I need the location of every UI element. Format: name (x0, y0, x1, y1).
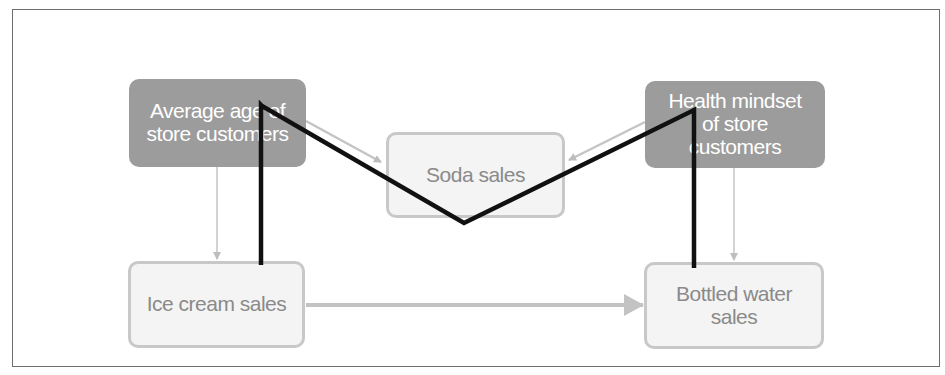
node-ice-cream-sales[interactable]: Ice cream sales (128, 261, 305, 348)
node-bottled-water-sales-label: Bottled water sales (676, 283, 792, 328)
node-average-age-label: Average age of store customers (147, 100, 289, 145)
node-soda-sales[interactable]: Soda sales (386, 132, 565, 218)
node-health-mindset-label: Health mindset of store customers (668, 90, 801, 158)
node-average-age[interactable]: Average age of store customers (129, 79, 306, 167)
node-ice-cream-sales-label: Ice cream sales (147, 293, 287, 316)
node-bottled-water-sales[interactable]: Bottled water sales (644, 262, 824, 349)
node-health-mindset[interactable]: Health mindset of store customers (645, 81, 825, 168)
node-soda-sales-label: Soda sales (426, 164, 525, 187)
